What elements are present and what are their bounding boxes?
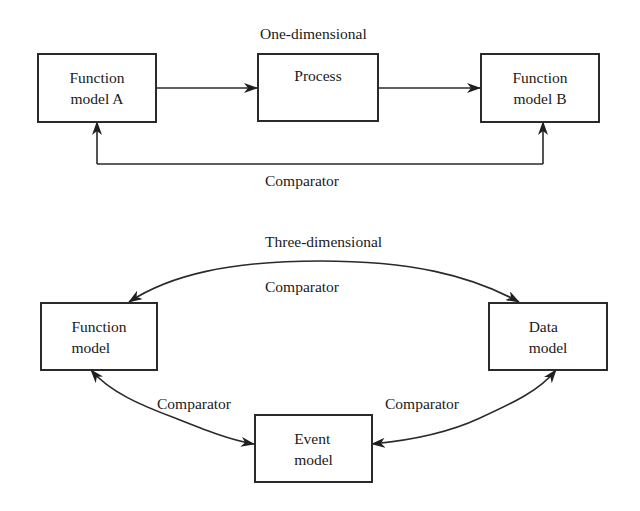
data-model-label: Data model: [529, 316, 568, 358]
function-model-b-box: Function model B: [480, 53, 600, 123]
arc-function-event: [175, 418, 254, 444]
function-model-box: Function model: [40, 302, 158, 371]
event-model-label: Event model: [294, 428, 333, 470]
comparator-label-right: Comparator: [385, 395, 459, 413]
comparator-label-top: Comparator: [265, 278, 339, 296]
function-model-a-box: Function model A: [37, 53, 157, 123]
comparator-label-left: Comparator: [157, 395, 231, 413]
one-dimensional-title: One-dimensional: [260, 25, 367, 43]
function-model-a-label: Function model A: [69, 67, 124, 109]
process-box: Process: [257, 53, 379, 122]
diagram-canvas: One-dimensional Function model A Process…: [0, 0, 640, 511]
three-dimensional-title: Three-dimensional: [265, 233, 382, 251]
function-model-b-label: Function model B: [512, 67, 567, 109]
process-label: Process: [294, 65, 341, 86]
event-model-box: Event model: [254, 414, 373, 483]
comparator-label-one-dimensional: Comparator: [265, 172, 339, 190]
data-model-box: Data model: [488, 302, 608, 371]
function-model-label: Function model: [71, 316, 126, 358]
arc-data-function: [320, 261, 519, 302]
arc-event-data: [480, 370, 556, 418]
arc-data-event: [372, 418, 480, 444]
